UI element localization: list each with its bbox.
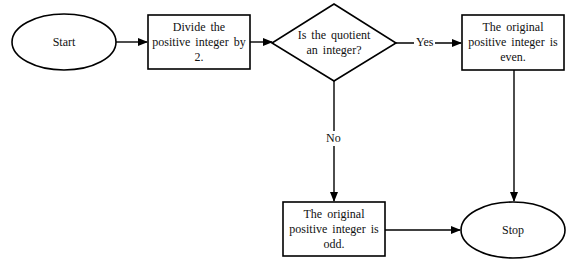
start-node-label: Start (12, 14, 116, 70)
decision-node-label: Is the quotient an integer? (292, 18, 376, 68)
stop-node-label: Stop (461, 202, 565, 258)
even-node-label: The original positive integer is even. (466, 15, 560, 70)
edge-no-label: No (324, 131, 343, 146)
odd-node-label: The original positive integer is odd. (287, 202, 381, 256)
divide-node-label: Divide the positive integer by 2. (152, 15, 246, 69)
edge-yes-label: Yes (414, 35, 435, 50)
